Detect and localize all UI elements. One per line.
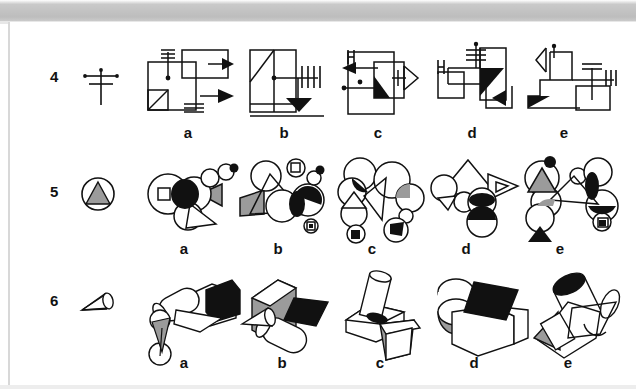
option-label-5d: d xyxy=(446,240,486,257)
option-5a[interactable]: a xyxy=(142,154,242,242)
option-5c[interactable]: c xyxy=(330,154,430,242)
option-label-5c: c xyxy=(352,240,392,257)
option-label-6b: b xyxy=(262,354,302,371)
question-row-6: 6 xyxy=(0,268,636,378)
option-5e[interactable]: e xyxy=(518,154,622,242)
row-number-4: 4 xyxy=(50,68,58,85)
option-6d[interactable]: d xyxy=(430,268,534,364)
option-label-4d: d xyxy=(452,124,492,141)
sheet-bottom-edge xyxy=(0,385,636,389)
option-label-4e: e xyxy=(544,124,584,141)
option-5d[interactable]: d xyxy=(424,154,524,242)
option-label-6a: a xyxy=(164,354,204,371)
option-label-5a: a xyxy=(164,240,204,257)
option-label-6c: c xyxy=(360,354,400,371)
option-label-6d: d xyxy=(454,354,494,371)
prompt-figure-6 xyxy=(76,286,122,320)
option-4c[interactable]: c xyxy=(334,38,430,122)
option-6a[interactable]: a xyxy=(140,268,244,364)
option-label-6e: e xyxy=(548,354,588,371)
row-number-5: 5 xyxy=(50,183,58,200)
option-label-5e: e xyxy=(540,240,580,257)
option-4b[interactable]: b xyxy=(240,38,336,122)
option-5b[interactable]: b xyxy=(236,154,336,242)
option-4e[interactable]: e xyxy=(520,38,620,122)
option-6b[interactable]: b xyxy=(238,268,342,364)
option-6c[interactable]: c xyxy=(336,268,440,364)
option-4d[interactable]: d xyxy=(428,38,524,122)
scanner-edge-band xyxy=(0,0,636,24)
prompt-figure-5 xyxy=(76,172,120,216)
option-label-5b: b xyxy=(258,240,298,257)
prompt-figure-4 xyxy=(78,60,124,110)
question-row-5: 5 xyxy=(0,150,636,255)
option-6e[interactable]: e xyxy=(524,268,628,364)
option-4a[interactable]: a xyxy=(144,38,240,122)
option-label-4c: c xyxy=(358,124,398,141)
option-label-4b: b xyxy=(264,124,304,141)
question-row-4: 4 xyxy=(0,30,636,135)
option-label-4a: a xyxy=(168,124,208,141)
row-number-6: 6 xyxy=(50,292,58,309)
test-page: 4 xyxy=(0,0,636,389)
